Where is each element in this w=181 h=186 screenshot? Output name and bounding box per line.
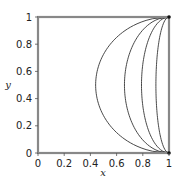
y-tick-label: 0.4 bbox=[16, 93, 32, 104]
endpoint-marker bbox=[167, 15, 171, 19]
curve-1 bbox=[96, 17, 169, 153]
chart: 00.20.40.60.81 00.20.40.60.81 x y bbox=[0, 0, 181, 186]
curve-2 bbox=[124, 17, 169, 153]
x-tick-label: 1 bbox=[166, 158, 172, 169]
curve-4 bbox=[156, 17, 169, 153]
x-tick-label: 0.2 bbox=[56, 158, 72, 169]
plot-area bbox=[38, 15, 171, 155]
y-tick-label: 1 bbox=[26, 12, 32, 23]
y-axis-label: y bbox=[4, 79, 11, 90]
x-tick-label: 0 bbox=[35, 158, 41, 169]
x-tick-label: 0.4 bbox=[82, 158, 98, 169]
y-axis-ticks: 00.20.40.60.81 bbox=[16, 12, 38, 159]
curve-3 bbox=[141, 17, 169, 153]
x-tick-label: 0.6 bbox=[109, 158, 125, 169]
y-tick-label: 0.8 bbox=[16, 39, 32, 50]
x-axis-label: x bbox=[100, 167, 106, 178]
x-tick-label: 0.8 bbox=[135, 158, 151, 169]
y-tick-label: 0.6 bbox=[16, 66, 32, 77]
y-tick-label: 0 bbox=[26, 148, 32, 159]
y-tick-label: 0.2 bbox=[16, 120, 32, 131]
